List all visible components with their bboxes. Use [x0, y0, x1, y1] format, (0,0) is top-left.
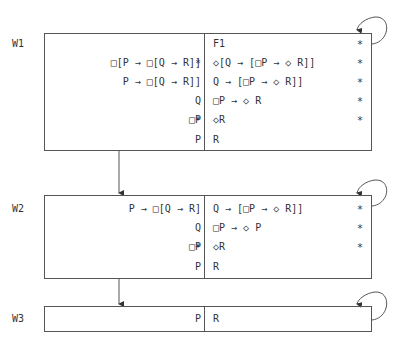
world-box-w1: □[P → □[Q → R]] * P → □[Q → R]] Q □P * P…	[44, 33, 372, 151]
column-divider	[204, 196, 205, 278]
checked-mark: *	[357, 223, 363, 235]
left-formula: Q	[195, 222, 201, 234]
right-formula: R	[213, 313, 219, 325]
right-formula: R	[213, 134, 219, 146]
checked-mark: *	[357, 39, 363, 51]
checked-mark: *	[195, 115, 201, 127]
world-label-w1: W1	[12, 38, 24, 49]
left-formula: P	[195, 313, 201, 325]
column-divider	[204, 307, 205, 331]
left-formula: P → □[Q → R]]	[123, 76, 201, 88]
right-formula: □P → ◇ R	[213, 95, 261, 107]
checked-mark: *	[357, 204, 363, 216]
right-formula: Q → [□P → ◇ R]]	[213, 76, 303, 88]
left-formula: P	[195, 134, 201, 146]
right-formula: F1	[213, 38, 225, 50]
world-label-w3: W3	[12, 313, 24, 324]
checked-mark: *	[357, 115, 363, 127]
world-box-w3: P R	[44, 306, 372, 332]
column-divider	[204, 34, 205, 150]
left-formula: P	[195, 261, 201, 273]
world-box-w2: P → □[Q → R] Q □P * P Q → [□P → ◇ R]] * …	[44, 195, 372, 279]
right-formula: ◇[Q → [□P → ◇ R]]	[213, 57, 315, 69]
checked-mark: *	[195, 58, 201, 70]
checked-mark: *	[357, 77, 363, 89]
checked-mark: *	[357, 96, 363, 108]
right-formula: □P → ◇ P	[213, 222, 261, 234]
checked-mark: *	[357, 58, 363, 70]
left-formula: Q	[195, 95, 201, 107]
left-formula: □[P → □[Q → R]]	[111, 57, 201, 69]
checked-mark: *	[357, 242, 363, 254]
right-formula: Q → [□P → ◇ R]]	[213, 203, 303, 215]
left-formula: P → □[Q → R]	[129, 203, 201, 215]
checked-mark: *	[195, 242, 201, 254]
right-formula: R	[213, 261, 219, 273]
world-label-w2: W2	[12, 203, 24, 214]
right-formula: ◇R	[213, 114, 225, 126]
right-formula: ◇R	[213, 241, 225, 253]
